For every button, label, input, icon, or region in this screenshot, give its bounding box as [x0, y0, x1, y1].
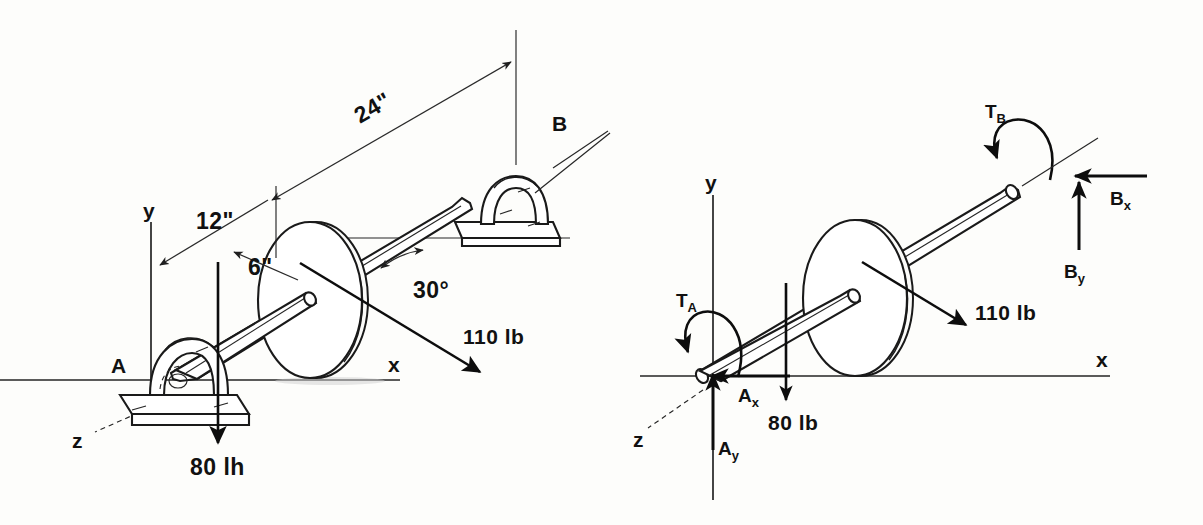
bearing-b-base-front	[462, 238, 560, 246]
shaft-extension-left	[553, 131, 608, 168]
figure-canvas: x y z	[0, 0, 1203, 525]
reaction-bx: Bx	[1075, 176, 1147, 213]
axis-x-label-right: x	[1096, 348, 1108, 371]
couple-tb: TB	[985, 101, 1052, 180]
bearing-a-base-front	[132, 414, 249, 425]
dim-6in-label: 6"	[248, 254, 273, 280]
reaction-ax: Ax	[712, 376, 790, 410]
force-110lb-label-left: 110 lb	[463, 325, 524, 348]
bearing-b-leader	[535, 133, 610, 193]
couple-ta-label: TA	[676, 290, 698, 315]
couple-tb-arc	[994, 120, 1052, 180]
reaction-by-label: By	[1064, 261, 1086, 286]
axis-z-label-left: z	[72, 429, 83, 452]
force-80lb-label-left: 80 lh	[190, 454, 245, 480]
bearing-b-seam2	[500, 210, 512, 214]
force-110lb-label-right: 110 lb	[975, 301, 1036, 324]
dim-24in-label: 24"	[350, 87, 396, 129]
left-space-diagram: x y z	[0, 30, 610, 480]
couple-tb-label: TB	[985, 101, 1006, 126]
reaction-ay-label: Ay	[718, 438, 740, 463]
bearing-b-label: B	[552, 112, 568, 135]
z-axis-line-right	[648, 390, 703, 428]
bearing-a-label: A	[111, 354, 127, 377]
reaction-ax-label: Ax	[738, 385, 760, 410]
engineering-diagram: x y z	[0, 0, 1203, 525]
shaft-extension-right	[1022, 138, 1098, 186]
bearing-b-saddle	[481, 176, 548, 224]
dim-24in-arrow	[272, 62, 511, 200]
bearing-a-base-top	[120, 395, 249, 414]
force-80lb-label-right: 80 lb	[768, 411, 818, 434]
right-free-body-diagram: x y z	[633, 101, 1147, 500]
reaction-by: By	[1064, 182, 1086, 286]
axis-y-label-left: y	[143, 199, 155, 222]
reaction-bx-label: Bx	[1110, 188, 1132, 213]
axis-y-label-right: y	[705, 171, 717, 194]
axis-z-label-right: z	[633, 428, 644, 451]
reaction-ay: Ay	[713, 374, 740, 463]
bearing-b-left: B	[455, 112, 610, 246]
dim-24in: 24"	[272, 30, 516, 200]
angle-30-label: 30°	[413, 277, 449, 303]
dim-12in-label: 12"	[196, 208, 234, 234]
axis-x-label-left: x	[388, 353, 400, 376]
